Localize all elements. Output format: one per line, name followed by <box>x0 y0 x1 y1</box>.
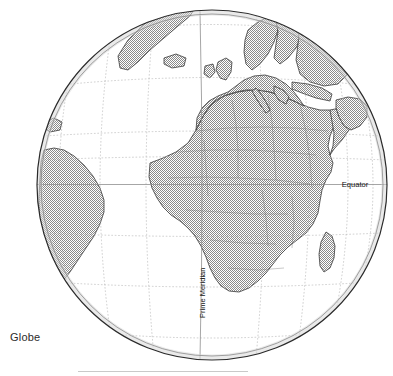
footer-rule <box>78 371 248 372</box>
arctic-islands <box>252 2 272 13</box>
globe-figure: Equator Prime Meridian Globe <box>0 0 393 376</box>
prime-meridian-label: Prime Meridian <box>198 268 207 318</box>
figure-caption: Globe <box>10 331 40 343</box>
equator-label: Equator <box>342 180 369 189</box>
globe-map-svg: Equator Prime Meridian <box>0 0 393 376</box>
